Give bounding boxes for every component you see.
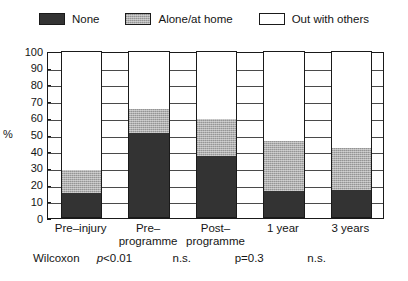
bar-segment-alone-at-home	[128, 109, 169, 132]
bar-segment-none	[263, 191, 304, 218]
bar-segment-out-with-others	[61, 51, 102, 170]
bar-segment-out-with-others	[128, 51, 169, 109]
bar-stack	[263, 53, 304, 218]
chart-legend: None Alone/at home Out with others	[0, 8, 408, 30]
y-tick-mark	[47, 202, 51, 203]
y-tick-mark	[47, 102, 51, 103]
legend-entry-out-with-others: Out with others	[259, 13, 369, 25]
bar-segment-alone-at-home	[263, 141, 304, 191]
y-tick-mark	[47, 152, 51, 153]
legend-label-out-with-others: Out with others	[292, 13, 369, 25]
y-tick-label: 10	[21, 197, 43, 208]
wilcoxon-label: Wilcoxon	[33, 252, 80, 264]
y-tick-label: 40	[21, 147, 43, 158]
bar-stack	[331, 53, 372, 218]
x-tick-label: Pre–programme	[114, 222, 181, 248]
y-tick-mark	[47, 186, 51, 187]
y-tick-label: 70	[21, 97, 43, 108]
y-tick-label: 90	[21, 63, 43, 74]
y-tick-label: 50	[21, 130, 43, 141]
y-axis-title: %	[3, 128, 13, 140]
wilcoxon-p-value: n.s.	[277, 252, 357, 265]
y-tick-mark	[47, 119, 51, 120]
bar-segment-out-with-others	[263, 51, 304, 141]
y-axis-tick-labels: 0102030405060708090100	[18, 52, 43, 219]
bar-segment-alone-at-home	[331, 148, 372, 190]
bar-segment-out-with-others	[196, 51, 237, 119]
y-tick-label: 80	[21, 80, 43, 91]
x-tick-label: 1 year	[249, 222, 316, 235]
wilcoxon-stats-row: Wilcoxon p<0.01n.s.p=0.3n.s.	[0, 252, 408, 270]
y-tick-mark	[47, 85, 51, 86]
plot-area	[47, 52, 384, 219]
y-tick-label: 20	[21, 180, 43, 191]
y-tick-mark	[47, 69, 51, 70]
y-tick-label: 100	[21, 47, 43, 58]
bar-stack	[61, 53, 102, 218]
bar-segment-alone-at-home	[61, 170, 102, 193]
bar-segment-none	[196, 156, 237, 218]
plot-inner	[48, 53, 383, 218]
x-tick-label: Post–programme	[182, 222, 249, 248]
y-tick-label: 60	[21, 113, 43, 124]
x-tick-label: 3 years	[317, 222, 384, 235]
x-axis-category-labels: Pre–injuryPre–programmePost–programme1 y…	[47, 222, 384, 256]
y-tick-mark	[47, 136, 51, 137]
bar-stack	[196, 53, 237, 218]
legend-label-none: None	[72, 13, 100, 25]
y-tick-mark	[47, 169, 51, 170]
dark-fill-swatch-icon	[39, 13, 65, 25]
white-fill-swatch-icon	[259, 13, 285, 25]
bar-segment-alone-at-home	[196, 119, 237, 156]
bar-segment-none	[61, 193, 102, 218]
gray-hatch-swatch-icon	[125, 13, 151, 25]
x-tick-label: Pre–injury	[47, 222, 114, 235]
bar-segment-none	[128, 133, 169, 218]
bar-segment-out-with-others	[331, 51, 372, 148]
legend-label-alone-at-home: Alone/at home	[158, 13, 232, 25]
y-tick-mark	[47, 219, 51, 220]
y-tick-mark	[47, 52, 51, 53]
legend-entry-alone-at-home: Alone/at home	[125, 13, 232, 25]
y-tick-label: 30	[21, 163, 43, 174]
y-tick-label: 0	[21, 214, 43, 225]
bar-segment-none	[331, 190, 372, 218]
bar-stack	[128, 53, 169, 218]
legend-entry-none: None	[39, 13, 100, 25]
